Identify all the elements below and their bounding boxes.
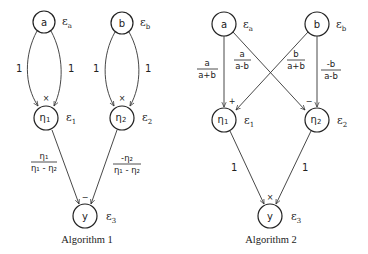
edge-label-a-eta1-right: 1 <box>68 63 74 74</box>
edge-label-eta1-y: η₁ η₁ - η₂ <box>31 151 57 173</box>
algorithm-2: a εa b εb η1 ε1 + η2 ε2 − y ε3 × <box>197 12 347 245</box>
node-eta1: η1 ε1 × <box>34 94 76 130</box>
svg-text:-b: -b <box>327 59 335 69</box>
svg-text:a-b: a-b <box>324 71 338 81</box>
svg-text:ε2: ε2 <box>337 114 347 129</box>
node-y: y ε3 − <box>73 193 116 228</box>
svg-text:ε1: ε1 <box>244 114 254 129</box>
algorithm-1: a εa b εb η1 ε1 × η2 ε2 × y ε3 − <box>16 11 152 245</box>
edge-label-eta2-y: -η₂ η₁ - η₂ <box>113 153 141 175</box>
svg-text:+: + <box>229 97 236 106</box>
node-a: a εa <box>212 12 253 36</box>
svg-text:b: b <box>119 18 125 29</box>
edge-label-b-eta2-right: 1 <box>145 63 151 74</box>
svg-text:y: y <box>82 211 88 222</box>
node-y: y ε3 × <box>258 193 301 228</box>
svg-text:ε1: ε1 <box>66 111 76 126</box>
svg-text:a-b: a-b <box>235 61 249 71</box>
svg-text:η2: η2 <box>116 112 127 125</box>
edge-a-eta1-left <box>27 31 38 106</box>
svg-text:η2: η2 <box>311 114 322 127</box>
svg-text:a: a <box>41 17 47 28</box>
caption-algorithm-1: Algorithm 1 <box>61 234 113 245</box>
svg-text:εa: εa <box>62 15 72 30</box>
node-eta1: η1 ε1 + <box>212 97 254 132</box>
edge-label-a-eta2: a a-b <box>234 49 251 71</box>
node-eta2: η2 ε2 − <box>305 97 347 132</box>
svg-text:a: a <box>221 19 227 30</box>
edge-b-eta1 <box>236 32 308 110</box>
caption-algorithm-2: Algorithm 2 <box>245 234 297 245</box>
svg-text:×: × <box>267 193 274 202</box>
edge-b-eta2-right <box>129 32 139 106</box>
edge-a-eta1-right <box>51 31 61 106</box>
edge-label-eta2-y: 1 <box>302 162 308 173</box>
svg-text:-η₂: -η₂ <box>121 153 133 163</box>
node-eta2: η2 ε2 × <box>110 94 152 130</box>
node-b: b εb <box>305 12 347 36</box>
edge-a-eta2 <box>233 32 305 110</box>
svg-text:ε3: ε3 <box>106 210 116 225</box>
edge-b-eta2-left <box>105 32 115 106</box>
svg-text:a+b: a+b <box>287 61 305 71</box>
diagram-canvas: a εa b εb η1 ε1 × η2 ε2 × y ε3 − <box>0 0 368 254</box>
node-b: b εb <box>111 12 151 34</box>
svg-text:η₁ - η₂: η₁ - η₂ <box>114 165 140 175</box>
svg-text:×: × <box>43 94 50 103</box>
edge-label-b-eta2: -b a-b <box>321 59 341 81</box>
svg-text:a: a <box>204 58 209 68</box>
svg-text:ε2: ε2 <box>142 111 152 126</box>
svg-text:−: − <box>306 97 313 106</box>
node-a: a εa <box>33 11 72 33</box>
svg-text:a: a <box>239 49 244 59</box>
edge-label-b-eta2-left: 1 <box>93 63 99 74</box>
svg-text:b: b <box>293 49 298 59</box>
svg-text:εb: εb <box>336 18 347 33</box>
edge-label-a-eta1: a a+b <box>197 58 218 80</box>
svg-text:b: b <box>314 19 320 30</box>
svg-text:η1: η1 <box>218 114 229 127</box>
svg-text:a+b: a+b <box>198 70 216 80</box>
svg-text:×: × <box>119 94 126 103</box>
svg-text:εb: εb <box>140 16 151 31</box>
svg-text:εa: εa <box>243 18 253 33</box>
edge-label-eta1-y: 1 <box>231 162 237 173</box>
svg-text:y: y <box>267 211 273 222</box>
svg-text:η₁ - η₂: η₁ - η₂ <box>31 163 57 173</box>
svg-text:−: − <box>82 193 89 202</box>
edge-label-a-eta1-left: 1 <box>16 63 22 74</box>
svg-text:η₁: η₁ <box>40 151 49 161</box>
svg-text:ε3: ε3 <box>291 210 301 225</box>
svg-text:η1: η1 <box>40 112 51 125</box>
